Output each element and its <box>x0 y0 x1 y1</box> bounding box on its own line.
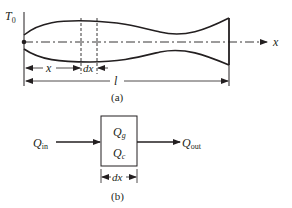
dx-label-b: dx <box>112 171 123 183</box>
base-point <box>22 40 27 45</box>
part-b: Qin Qout Qg Qc dx (b) <box>33 116 202 203</box>
part-a: T0 x x dx l <box>5 9 279 104</box>
base-temperature-label: T0 <box>5 9 16 25</box>
length-l-label: l <box>114 74 118 88</box>
element-width-dimension-b: dx <box>101 169 137 183</box>
length-dimension: l <box>26 74 228 88</box>
axis-x-label: x <box>272 35 279 49</box>
heat-in-label: Qin <box>33 136 48 151</box>
caption-b: (b) <box>111 190 124 203</box>
fin-lower-profile <box>24 49 229 65</box>
heat-out-label: Qout <box>182 136 202 151</box>
position-x-label: x <box>45 61 52 75</box>
position-dimension: x <box>26 61 80 75</box>
dx-label-a: dx <box>83 62 94 74</box>
fin-upper-profile <box>24 18 229 35</box>
fin-diagram: T0 x x dx l <box>0 0 292 208</box>
caption-a: (a) <box>111 91 124 104</box>
